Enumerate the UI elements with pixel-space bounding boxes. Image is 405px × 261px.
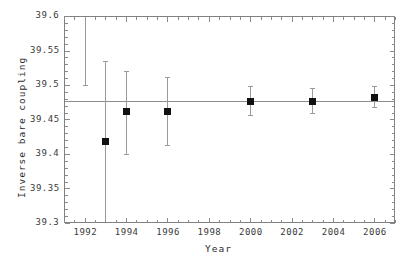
- x-tick-label: 2004: [322, 227, 346, 237]
- data-point-marker: [102, 138, 109, 145]
- error-bar-cap-lower: [248, 115, 253, 116]
- error-bar-cap-lower: [83, 85, 88, 86]
- data-point-marker: [371, 94, 378, 101]
- y-tick-label: 39.45: [30, 114, 60, 124]
- error-bar: [85, 17, 86, 85]
- error-bar-cap-lower: [165, 145, 170, 146]
- data-point-marker: [123, 108, 130, 115]
- x-tick-label: 1998: [198, 227, 222, 237]
- plot-area: [65, 17, 394, 222]
- y-tick-label: 39.6: [36, 10, 60, 20]
- chart-canvas: Inverse bare coupling Year 39.339.3539.4…: [0, 0, 405, 261]
- error-bar-cap-upper: [310, 88, 315, 89]
- data-point-marker: [309, 98, 316, 105]
- axis-tick: [395, 17, 396, 20]
- y-tick-label: 39.5: [36, 79, 60, 89]
- x-tick-label: 2000: [239, 227, 263, 237]
- data-point-marker: [164, 108, 171, 115]
- data-point-marker: [247, 98, 254, 105]
- x-axis-title: Year: [205, 243, 232, 254]
- x-tick-label: 1996: [156, 227, 180, 237]
- y-tick-label: 39.3: [36, 217, 60, 227]
- x-tick-label: 2006: [363, 227, 387, 237]
- error-bar-cap-upper: [372, 86, 377, 87]
- error-bar-cap-upper: [124, 71, 129, 72]
- x-tick-label: 1992: [73, 227, 97, 237]
- error-bar-cap-upper: [248, 86, 253, 87]
- error-bar-cap-lower: [310, 113, 315, 114]
- axis-tick: [65, 223, 70, 224]
- error-bar-cap-lower: [372, 107, 377, 108]
- y-axis-title: Inverse bare coupling: [16, 57, 27, 198]
- axis-tick: [390, 223, 395, 224]
- error-bar-cap-upper: [103, 61, 108, 62]
- x-tick-label: 2002: [280, 227, 304, 237]
- y-tick-label: 39.35: [30, 183, 60, 193]
- reference-line: [65, 101, 394, 102]
- x-tick-label: 1994: [115, 227, 139, 237]
- error-bar-cap-upper: [165, 77, 170, 78]
- y-tick-label: 39.55: [30, 45, 60, 55]
- axis-tick: [395, 220, 396, 223]
- y-tick-label: 39.4: [36, 148, 60, 158]
- error-bar-cap-lower: [124, 154, 129, 155]
